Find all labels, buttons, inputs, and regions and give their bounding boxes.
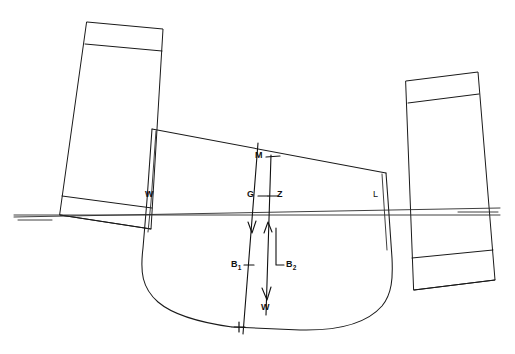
weight-force-label: W	[261, 303, 270, 312]
b2-riser-line	[276, 228, 284, 265]
waterlines	[14, 208, 500, 220]
righting-lever-label: Z	[277, 190, 283, 199]
stability-diagram-canvas: M G Z B1 B2 W W L	[0, 0, 515, 354]
metacentre-label: M	[255, 151, 263, 160]
starboard-pontoon-top-band	[408, 94, 479, 103]
buoyancy-arrowhead-up	[264, 222, 272, 233]
buoyancy-upright-subscript: 1	[238, 264, 242, 271]
waterline-heeled	[14, 208, 500, 217]
port-pontoon-top-band	[85, 44, 162, 51]
centre-of-gravity-label: G	[247, 190, 254, 199]
port-pontoon-bottom-band	[62, 196, 152, 208]
hull-deck-line	[152, 129, 386, 173]
buoyancy-upright-label: B1	[231, 260, 242, 271]
port-pontoon-bottom-edge	[60, 215, 151, 229]
starboard-pontoon-bottom-band	[412, 250, 493, 258]
hull-starboard-inner-line	[382, 174, 387, 250]
buoyancy-heeled-letter: B	[286, 259, 293, 269]
waterline-left-label: W	[145, 190, 154, 199]
buoyancy-heeled-label: B2	[286, 260, 297, 271]
starboard-pontoon	[406, 72, 495, 290]
waterline-right-label: L	[373, 190, 378, 199]
metacentre-tick	[266, 156, 280, 157]
hull-bottom	[232, 173, 392, 330]
buoyancy-heeled-subscript: 2	[293, 264, 297, 271]
gravity-centreline	[243, 143, 258, 334]
starboard-pontoon-bottom-edge	[414, 280, 495, 290]
buoyancy-upright-letter: B	[231, 259, 238, 269]
diagram-svg	[0, 0, 515, 354]
